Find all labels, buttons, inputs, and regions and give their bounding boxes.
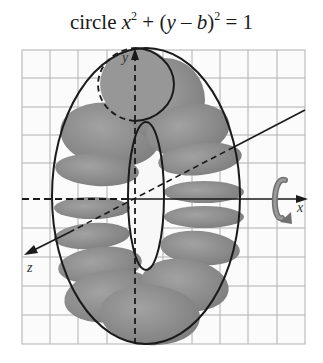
y-axis-label: y	[120, 50, 129, 65]
torus-diagram: y x z	[0, 0, 323, 363]
x-axis-label: x	[296, 200, 304, 215]
z-axis-label: z	[26, 260, 33, 275]
